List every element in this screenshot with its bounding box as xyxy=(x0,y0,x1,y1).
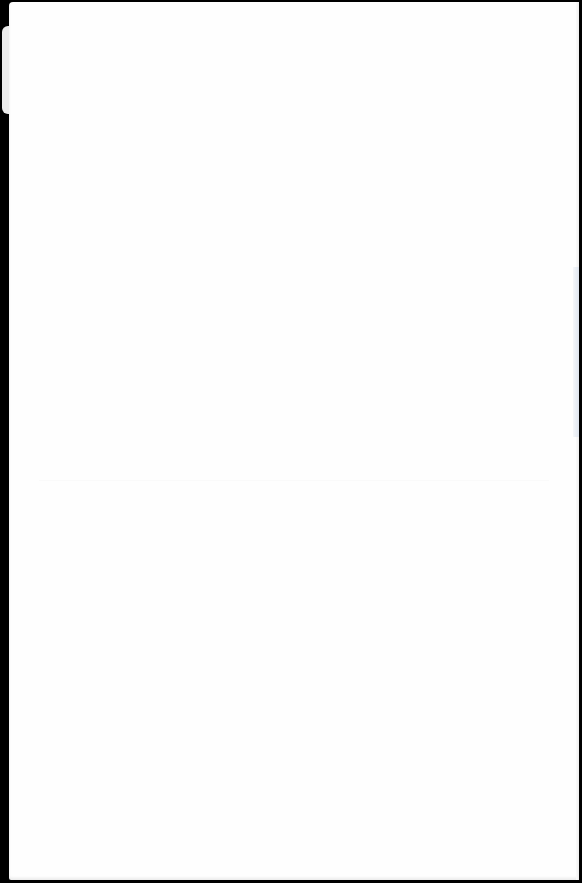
fold-line xyxy=(39,480,549,481)
edge-tint-strip xyxy=(573,267,579,437)
page-right-edge xyxy=(576,2,579,880)
blank-page xyxy=(9,2,579,880)
